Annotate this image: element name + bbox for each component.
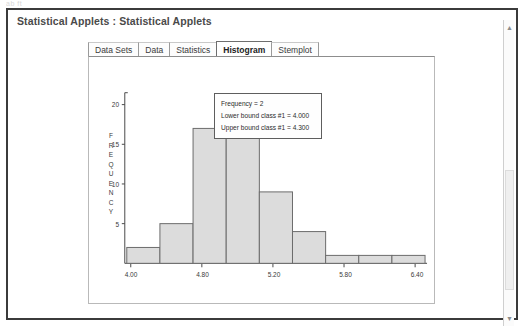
histogram-bar[interactable] (359, 255, 392, 263)
x-axis-tick-label: 5.80 (334, 271, 358, 278)
y-axis-tick-label: 15 (103, 141, 119, 148)
histogram-bar[interactable] (127, 247, 160, 263)
scroll-down-arrow-icon[interactable]: ▼ (504, 313, 515, 324)
histogram-bar[interactable] (193, 128, 226, 263)
histogram-bar[interactable] (392, 255, 425, 263)
tab-statistics[interactable]: Statistics (169, 42, 217, 57)
x-axis-tick-label: 6.40 (405, 271, 429, 278)
histogram-bar[interactable] (259, 192, 292, 263)
tab-label: Histogram (223, 45, 265, 55)
tooltip-upper-bound: Upper bound class #1 = 4.300 (221, 122, 316, 134)
tab-label: Stemplot (278, 45, 312, 55)
data-tooltip: Frequency = 2 Lower bound class #1 = 4.0… (214, 93, 322, 139)
y-axis-label-letter: Q (108, 160, 113, 170)
histogram-bar[interactable] (292, 232, 325, 264)
y-axis-tick-label: 5 (103, 221, 119, 228)
histogram-bar[interactable] (160, 224, 193, 264)
tooltip-frequency: Frequency = 2 (221, 98, 316, 110)
tab-label: Data Sets (95, 45, 132, 55)
x-axis-tick-label: 5.20 (262, 271, 286, 278)
histogram-bar[interactable] (226, 128, 259, 263)
y-axis-tick-label: 20 (103, 101, 119, 108)
scroll-up-arrow-icon[interactable]: ▲ (504, 22, 515, 33)
vertical-scrollbar[interactable]: ▲ ▼ (503, 20, 514, 326)
tab-stemplot[interactable]: Stemplot (271, 42, 319, 57)
screenshot-root: ab ft Statistical Applets : Statistical … (0, 0, 530, 332)
tab-label: Data (145, 45, 163, 55)
tooltip-lower-bound: Lower bound class #1 = 4.000 (221, 110, 316, 122)
tab-strip[interactable]: Data Sets Data Statistics Histogram Stem… (88, 41, 318, 57)
applet-window: Statistical Applets : Statistical Applet… (6, 8, 518, 320)
histogram-bar[interactable] (326, 255, 359, 263)
tab-data[interactable]: Data (138, 42, 170, 57)
scrollbar-thumb[interactable] (505, 170, 514, 290)
y-axis-tick-label: 10 (103, 181, 119, 188)
x-axis-tick-label: 4.00 (119, 271, 143, 278)
y-axis-label-letter: C (109, 198, 114, 208)
page-title: Statistical Applets : Statistical Applet… (17, 15, 516, 27)
y-axis-label-letter: Y (109, 207, 113, 217)
y-axis-label-letter: U (109, 169, 114, 179)
y-axis-label-letter: E (109, 150, 113, 160)
tab-data-sets[interactable]: Data Sets (88, 42, 139, 57)
x-axis-tick-label: 4.80 (191, 271, 215, 278)
tab-label: Statistics (176, 45, 210, 55)
histogram-panel[interactable]: FREQUENCY 5101520 4.004.805.205.806.40 F… (88, 56, 435, 304)
tab-histogram[interactable]: Histogram (216, 41, 272, 57)
y-axis-label-letter: N (109, 188, 114, 198)
title-bar: Statistical Applets : Statistical Applet… (8, 10, 516, 32)
y-axis-label-letter: F (109, 131, 113, 141)
